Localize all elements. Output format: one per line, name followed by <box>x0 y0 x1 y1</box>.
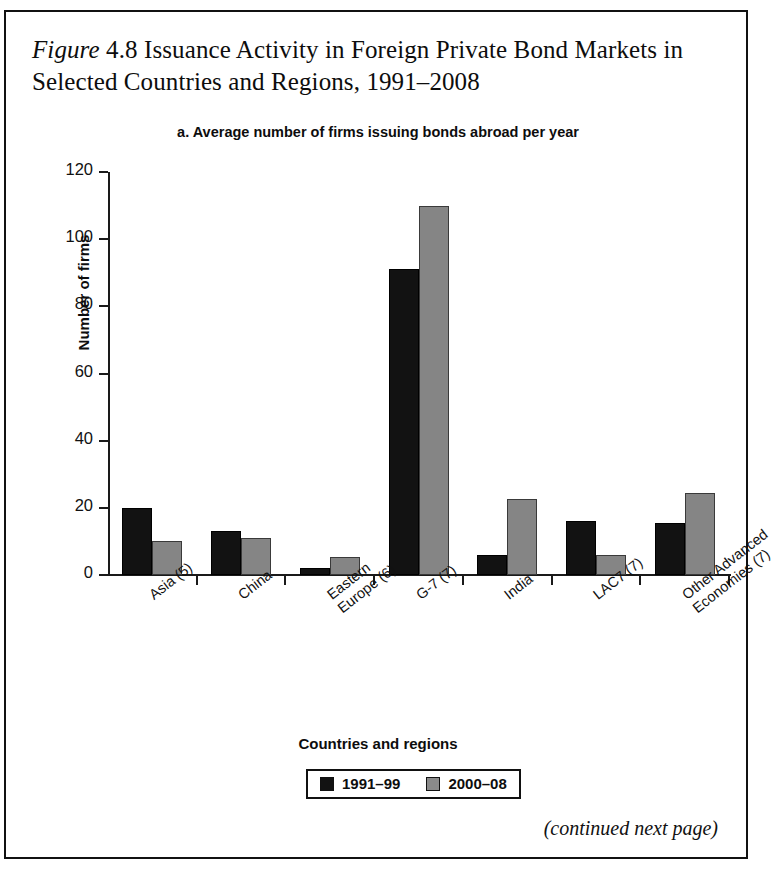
y-axis-tick: 120 <box>99 171 108 173</box>
figure-frame: Figure 4.8 Issuance Activity in Foreign … <box>4 10 748 859</box>
bar-1-4 <box>507 499 537 575</box>
x-axis-tick <box>639 575 641 585</box>
y-axis-tick-label: 0 <box>84 563 93 582</box>
bar-0-0 <box>122 508 152 575</box>
bar-0-5 <box>566 521 596 575</box>
legend-swatch-icon <box>320 777 334 791</box>
x-axis-tick <box>551 575 553 585</box>
y-axis-tick-label: 60 <box>75 362 93 381</box>
legend-label: 1991–99 <box>342 775 400 792</box>
bar-1-6 <box>685 493 715 575</box>
y-axis-tick-label: 120 <box>65 160 93 179</box>
y-axis-tick-label: 20 <box>75 496 93 515</box>
x-axis-tick <box>462 575 464 585</box>
figure-label: Figure <box>32 36 100 63</box>
chart-legend: 1991–992000–08 <box>306 769 521 799</box>
bar-0-1 <box>211 531 241 575</box>
y-axis-tick: 20 <box>99 507 108 509</box>
bar-0-3 <box>389 269 419 575</box>
legend-item-1: 2000–08 <box>426 775 506 792</box>
figure-title: Figure 4.8 Issuance Activity in Foreign … <box>32 34 722 98</box>
y-axis-tick: 100 <box>99 238 108 240</box>
bar-0-2 <box>300 568 330 575</box>
legend-item-0: 1991–99 <box>320 775 400 792</box>
x-axis-tick <box>284 575 286 585</box>
x-axis-title: Countries and regions <box>6 735 750 752</box>
y-axis-tick: 40 <box>99 440 108 442</box>
y-axis-tick-label: 40 <box>75 429 93 448</box>
bar-0-4 <box>477 555 507 575</box>
legend-label: 2000–08 <box>448 775 506 792</box>
bar-0-6 <box>655 523 685 575</box>
y-axis-tick: 80 <box>99 305 108 307</box>
plot-area: 020406080100120 <box>108 172 729 575</box>
y-axis-tick: 0 <box>99 574 108 576</box>
bar-1-3 <box>419 206 449 575</box>
continued-next-page-note: (continued next page) <box>544 817 718 840</box>
legend-swatch-icon <box>426 777 440 791</box>
x-axis-tick <box>196 575 198 585</box>
figure-number: 4.8 <box>106 36 138 63</box>
y-axis-tick: 60 <box>99 373 108 375</box>
y-axis-title: Number of firms <box>75 235 92 351</box>
panel-subtitle: a. Average number of firms issuing bonds… <box>6 124 750 140</box>
